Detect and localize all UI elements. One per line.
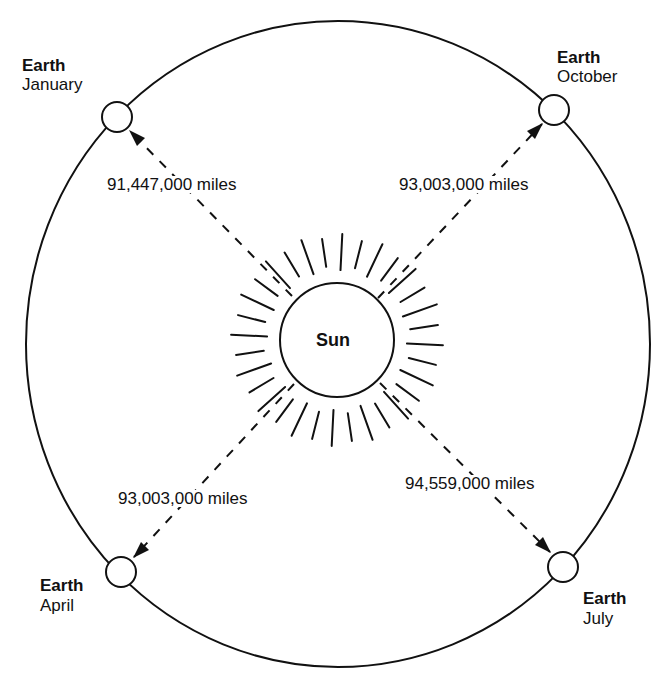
sun-ray [266, 261, 290, 288]
sun-ray [401, 288, 425, 302]
arrowhead-january-icon [129, 130, 145, 146]
sun-ray [285, 253, 299, 277]
earth-july-name: Earth [583, 590, 626, 607]
earth-july [548, 552, 578, 582]
sun-ray [375, 404, 389, 428]
sun-ray [341, 234, 343, 270]
distance-line-october [378, 124, 542, 298]
sun-ray [384, 392, 408, 419]
sun-ray [361, 406, 373, 440]
sun-label: Sun [316, 330, 350, 351]
sun-ray [348, 413, 352, 441]
sun-ray [367, 244, 382, 277]
sun-ray [241, 295, 274, 310]
earth-october-name: Earth [557, 49, 600, 66]
sun-ray [231, 335, 267, 337]
earth-january-name: Earth [22, 57, 65, 74]
distance-line-july [380, 383, 550, 552]
sun-ray [238, 315, 265, 322]
sun-ray [292, 403, 307, 436]
earth-january [102, 102, 132, 132]
earth-october-month: October [557, 68, 617, 85]
sun-ray [301, 240, 313, 274]
sun-ray [312, 412, 319, 439]
distance-label-october: 93,003,000 miles [399, 176, 528, 193]
earth-april [106, 557, 136, 587]
distance-label-july: 94,559,000 miles [405, 475, 534, 492]
sun-ray [381, 258, 398, 281]
earth-april-name: Earth [40, 577, 83, 594]
sun-ray [409, 358, 436, 365]
sun-ray [403, 304, 437, 316]
sun-ray [355, 241, 362, 268]
earth-october [539, 95, 569, 125]
earth-july-month: July [583, 610, 613, 627]
sun-ray [236, 351, 264, 355]
earth-january-month: January [22, 76, 82, 93]
sun-ray [396, 384, 419, 401]
distance-line-april [134, 384, 294, 557]
sun-ray [332, 410, 334, 446]
distance-line-january [130, 131, 292, 296]
sun-ray [237, 364, 271, 376]
sun-ray [322, 239, 326, 267]
earth-april-month: April [40, 597, 74, 614]
sun-ray [410, 325, 438, 329]
distance-label-april: 93,003,000 miles [118, 490, 247, 507]
distance-label-january: 91,447,000 miles [107, 176, 236, 193]
sun-ray [255, 279, 278, 296]
sun-ray [400, 370, 433, 385]
sun-ray [407, 344, 443, 346]
sun-ray [250, 378, 274, 392]
sun-ray [276, 399, 293, 422]
